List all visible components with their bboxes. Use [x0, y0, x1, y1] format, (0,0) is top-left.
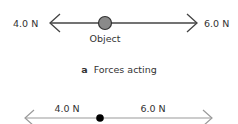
diagram-a: 4.0 N 6.0 N Object	[13, 14, 229, 44]
left-arrowhead-b-icon	[25, 110, 34, 124]
object-label: Object	[90, 33, 121, 44]
left-force-label: 4.0 N	[13, 18, 38, 29]
caption: a Forces acting	[81, 64, 157, 75]
left-force-label-b: 4.0 N	[54, 103, 79, 114]
right-force-label: 6.0 N	[204, 18, 229, 29]
right-force-label-b: 6.0 N	[140, 103, 165, 114]
diagram-b: 4.0 N 6.0 N	[25, 103, 212, 124]
caption-text: Forces acting	[94, 64, 157, 75]
caption-letter: a	[81, 64, 87, 75]
object-circle	[99, 17, 112, 30]
right-arrowhead-b-icon	[203, 110, 212, 124]
point-dot	[96, 114, 104, 122]
forces-diagram: 4.0 N 6.0 N Object a Forces acting 4.0 N…	[0, 0, 238, 124]
